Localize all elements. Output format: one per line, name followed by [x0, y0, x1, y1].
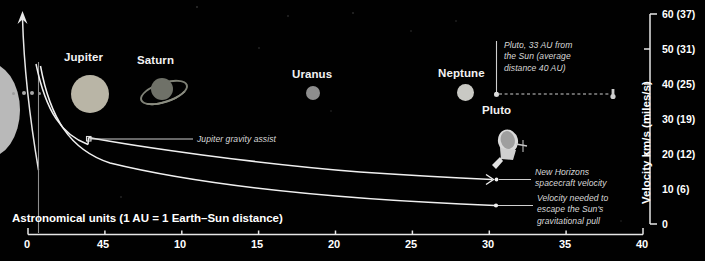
- new-horizons-spacecraft-icon: [492, 127, 527, 169]
- new-horizons-velocity-diagram: Jupiter Saturn Uranus Neptune Pluto Plut…: [0, 0, 705, 261]
- diagram-vector-layer: [0, 0, 705, 261]
- spacecraft-velocity-curve: [36, 64, 498, 185]
- escape-velocity-curve: [41, 66, 499, 208]
- x-axis: [28, 228, 643, 235]
- pluto-distance-indicator: [494, 41, 615, 99]
- y-axis: [644, 14, 657, 224]
- launch-velocity-arrow: [18, 11, 39, 170]
